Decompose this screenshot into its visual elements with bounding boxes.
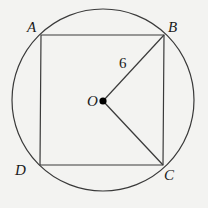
center-point — [99, 97, 106, 104]
diagram-canvas: A B C D O 6 — [0, 0, 208, 208]
radius-oc — [103, 101, 163, 165]
radius-ob — [103, 35, 164, 101]
radius-length-label: 6 — [119, 55, 127, 71]
label-b: B — [168, 19, 177, 35]
label-d: D — [14, 162, 26, 178]
label-a: A — [26, 19, 37, 35]
geometry-figure: A B C D O 6 — [0, 0, 208, 208]
label-o: O — [87, 93, 98, 109]
label-c: C — [164, 167, 175, 183]
